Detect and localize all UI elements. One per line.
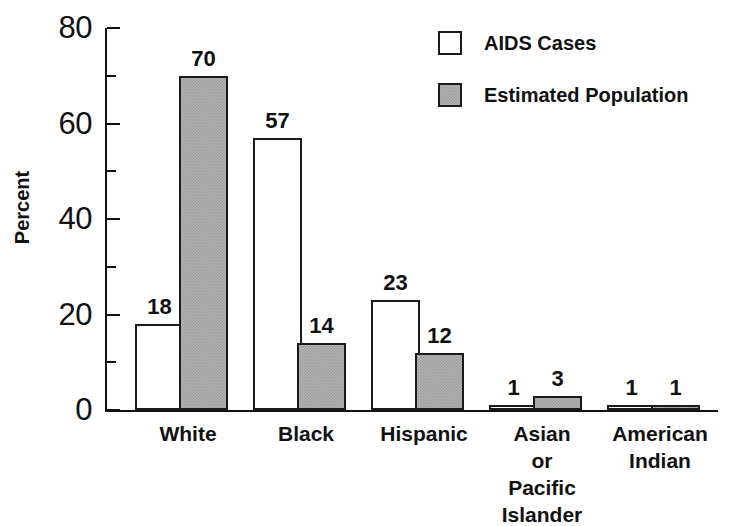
legend-label: AIDS Cases [484,32,596,55]
chart-legend: AIDS CasesEstimated Population [438,30,688,134]
legend-item-1: Estimated Population [438,82,688,108]
bar-value-label: 3 [519,368,596,390]
legend-swatch-gray-icon [438,83,462,107]
bar-aids-cases-4 [607,405,656,410]
y-tick-major [107,314,120,316]
bar-value-label: 70 [165,48,242,70]
bar-aids-cases-2 [371,300,420,410]
bar-aids-cases-1 [253,138,302,410]
bar-value-label: 57 [239,110,316,132]
y-tick-minor [107,75,116,77]
bar-aids-cases-0 [135,324,184,410]
y-tick-label: 40 [0,203,92,234]
y-tick-label: 20 [0,299,92,330]
y-tick-major [107,409,120,411]
bar-value-label: 23 [357,272,434,294]
y-tick-minor [107,170,116,172]
legend-swatch-white-icon [438,31,462,55]
y-tick-major [107,123,120,125]
y-tick-label: 80 [0,12,92,43]
bar-estimated-population-1 [297,343,346,410]
y-tick-label: 0 [0,394,92,425]
y-tick-major [107,218,120,220]
x-axis-category-label-4: American Indian [590,420,730,474]
y-tick-label: 60 [0,108,92,139]
bar-value-label: 1 [637,377,714,399]
y-tick-major [107,27,120,29]
bar-estimated-population-0 [179,76,228,410]
x-axis-line [105,410,718,412]
bar-value-label: 14 [283,315,360,337]
bar-value-label: 12 [401,325,478,347]
y-tick-minor [107,266,116,268]
legend-label: Estimated Population [484,84,688,107]
bar-aids-cases-3 [489,405,538,410]
legend-item-0: AIDS Cases [438,30,688,56]
bar-estimated-population-2 [415,353,464,410]
y-tick-minor [107,361,116,363]
y-axis-line [105,28,107,412]
bar-estimated-population-4 [651,405,700,410]
bar-estimated-population-3 [533,396,582,410]
